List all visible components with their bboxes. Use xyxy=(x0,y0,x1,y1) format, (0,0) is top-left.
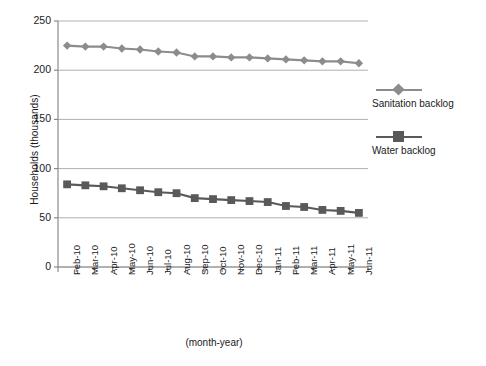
data-point-marker xyxy=(191,52,199,60)
legend-entry-water: Water backlog xyxy=(372,131,484,156)
data-point-marker xyxy=(355,59,363,67)
x-tick-label: Apr-11 xyxy=(326,247,337,275)
data-point-marker xyxy=(99,42,107,50)
x-tick-label: May-10 xyxy=(126,243,137,275)
data-point-marker xyxy=(154,188,162,196)
data-point-marker xyxy=(282,202,290,210)
data-point-marker xyxy=(227,53,235,61)
x-tick-label: Nov-10 xyxy=(235,244,246,275)
legend-label-water: Water backlog xyxy=(372,145,484,156)
chart-legend: Sanitation backlog Water backlog xyxy=(372,84,484,178)
x-tick-label: Jan-11 xyxy=(272,247,283,275)
y-tick-label: 250 xyxy=(17,14,51,26)
x-axis-title: (month-year) xyxy=(58,337,370,348)
data-point-marker xyxy=(173,189,181,197)
legend-label-sanitation: Sanitation backlog xyxy=(372,98,484,109)
data-point-marker xyxy=(136,186,144,194)
x-tick-label: Apr-10 xyxy=(108,246,119,275)
x-tick-label: Jun-11 xyxy=(363,247,374,275)
data-point-marker xyxy=(100,182,108,190)
y-tick-label: 100 xyxy=(17,162,51,174)
data-point-marker xyxy=(336,57,344,65)
data-point-marker xyxy=(319,206,327,214)
y-tick-label: 200 xyxy=(17,63,51,75)
data-point-marker xyxy=(264,198,272,206)
data-point-marker xyxy=(264,54,272,62)
x-tick-label: Sep-10 xyxy=(199,244,210,275)
legend-entry-sanitation: Sanitation backlog xyxy=(372,84,484,109)
data-point-marker xyxy=(209,52,217,60)
data-point-marker xyxy=(191,194,199,202)
x-tick-label: Feb-11 xyxy=(290,246,301,275)
data-point-marker xyxy=(318,57,326,65)
data-point-marker xyxy=(172,48,180,56)
chart-container: Households (thousands) (month-year) 0501… xyxy=(0,0,486,366)
x-tick-label: Aug-10 xyxy=(181,244,192,275)
x-tick-label: Mar-10 xyxy=(89,245,100,275)
data-point-marker xyxy=(209,195,217,203)
data-point-marker xyxy=(63,180,71,188)
data-point-marker xyxy=(154,47,162,55)
x-tick-label: Jun-10 xyxy=(144,246,155,275)
legend-marker-square-icon xyxy=(376,131,422,142)
y-tick-label: 150 xyxy=(17,112,51,124)
data-point-marker xyxy=(355,209,363,217)
x-tick-label: Jul-10 xyxy=(162,249,173,275)
data-point-marker xyxy=(118,44,126,52)
data-point-marker xyxy=(245,53,253,61)
legend-marker-diamond-icon xyxy=(376,84,422,95)
x-tick-label: Mar-11 xyxy=(308,246,319,275)
y-tick-label: 50 xyxy=(17,211,51,223)
data-point-marker xyxy=(81,42,89,50)
data-point-marker xyxy=(282,55,290,63)
x-tick-label: Dec-10 xyxy=(253,244,264,275)
data-point-marker xyxy=(300,56,308,64)
x-tick-label: Feb-10 xyxy=(71,245,82,275)
data-point-marker xyxy=(81,181,89,189)
data-point-marker xyxy=(136,45,144,53)
x-tick-label: May-11 xyxy=(345,244,356,275)
data-point-marker xyxy=(227,196,235,204)
chart-plot-area xyxy=(0,0,486,366)
data-point-marker xyxy=(246,197,254,205)
data-point-marker xyxy=(118,184,126,192)
data-point-marker xyxy=(337,207,345,215)
data-point-marker xyxy=(300,203,308,211)
x-tick-label: Oct-10 xyxy=(217,246,228,275)
y-tick-label: 0 xyxy=(17,260,51,272)
data-point-marker xyxy=(63,41,71,49)
